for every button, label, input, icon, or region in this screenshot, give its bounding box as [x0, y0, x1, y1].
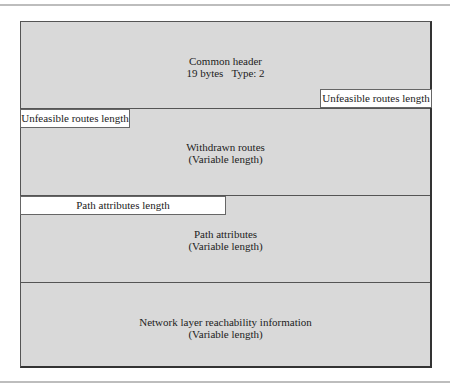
nlri-title: Network layer reachability information	[21, 316, 430, 328]
nlri-section: Network layer reachability information (…	[21, 282, 430, 369]
common-header-title: Common header	[21, 55, 430, 67]
unfeasible-routes-length-field-right: Unfeasible routes length	[320, 89, 432, 108]
common-header-detail: 19 bytes Type: 2	[21, 67, 430, 79]
path-attributes-section: Path attributes length Path attributes (…	[21, 195, 430, 282]
common-header-section: Common header 19 bytes Type: 2 Unfeasibl…	[21, 22, 430, 108]
bottom-rule	[0, 381, 450, 383]
bgp-update-message-diagram: Common header 19 bytes Type: 2 Unfeasibl…	[20, 21, 432, 368]
unfeasible-routes-length-field-left: Unfeasible routes length	[20, 109, 130, 128]
nlri-detail: (Variable length)	[21, 328, 430, 340]
top-rule	[0, 4, 450, 6]
withdrawn-routes-detail: (Variable length)	[21, 153, 430, 165]
withdrawn-routes-title: Withdrawn routes	[21, 141, 430, 153]
path-attributes-detail: (Variable length)	[21, 240, 430, 252]
withdrawn-routes-section: Unfeasible routes length Withdrawn route…	[21, 108, 430, 195]
path-attributes-length-field: Path attributes length	[20, 196, 226, 215]
path-attributes-title: Path attributes	[21, 228, 430, 240]
